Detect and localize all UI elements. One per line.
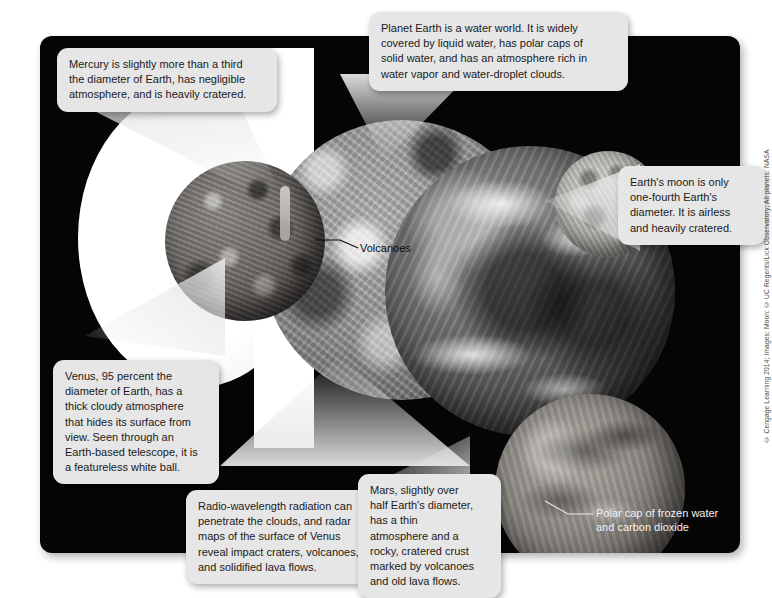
image-credit: © Cengage Learning 2014; Images: Moon: ©… — [763, 149, 770, 442]
image-panel: Volcanoes Polar cap of frozen water and … — [40, 36, 740, 553]
leader-lines — [40, 36, 740, 553]
polar-cap-label: Polar cap of frozen water and carbon dio… — [596, 506, 718, 534]
volcanoes-label: Volcanoes — [360, 241, 411, 255]
